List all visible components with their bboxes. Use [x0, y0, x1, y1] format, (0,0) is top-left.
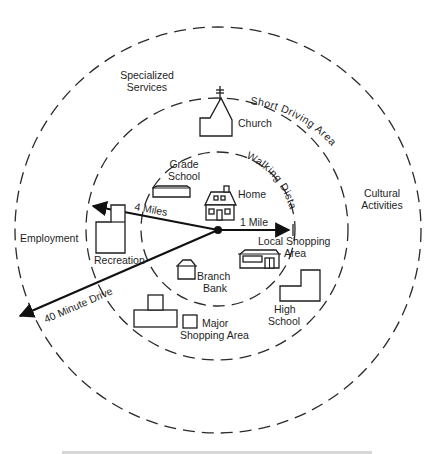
home-label: Home: [238, 188, 266, 200]
church-label: Church: [238, 117, 272, 129]
high-school-label-line1: High: [274, 303, 296, 315]
recreation-icon: [96, 205, 125, 253]
grade-school-label-line1: Grade: [169, 158, 198, 170]
specialized-services-label-line2: Services: [127, 81, 167, 93]
specialized-services-label-line1: Specialized: [120, 69, 174, 81]
local-shopping-icon: [238, 250, 281, 268]
employment-label: Employment: [20, 232, 78, 244]
center-point: [214, 226, 222, 234]
home-icon: [205, 186, 236, 220]
zones-diagram: Short Driving Area Walking Distance 1 Mi…: [0, 0, 437, 454]
grade-school-label-line2: School: [168, 170, 200, 182]
high-school-label-line2: School: [268, 315, 300, 327]
major-shopping-icon: [134, 295, 197, 328]
cultural-activities-label-line2: Activities: [361, 199, 402, 211]
grade-school-icon: [152, 186, 190, 197]
major-shopping-label-line1: Major: [202, 317, 229, 329]
high-school-icon: [280, 270, 320, 301]
church-icon: [200, 86, 232, 136]
local-shopping-label-line2: Area: [284, 247, 306, 259]
major-shopping-label-line2: Shopping Area: [180, 329, 249, 341]
cultural-activities-label-line1: Cultural: [364, 187, 400, 199]
branch-bank-icon: [176, 260, 197, 279]
local-shopping-label-line1: Local Shopping: [258, 235, 331, 247]
branch-bank-label-line1: Branch: [197, 270, 230, 282]
recreation-label: Recreation: [94, 254, 145, 266]
one-mile-label: 1 Mile: [240, 216, 268, 228]
diagram-canvas: Short Driving Area Walking Distance 1 Mi…: [0, 0, 437, 454]
branch-bank-label-line2: Bank: [203, 282, 228, 294]
